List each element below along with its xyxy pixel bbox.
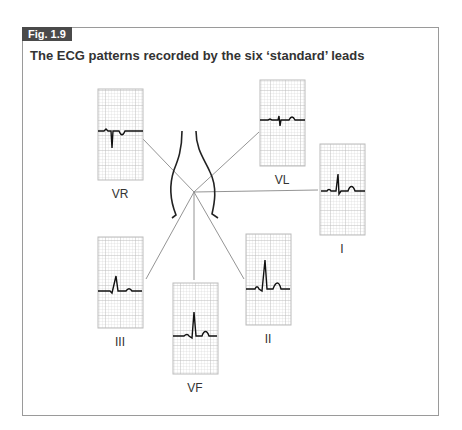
lead-iii-label: III <box>98 335 142 349</box>
lead-ii-strip <box>246 234 291 325</box>
lead-vl-strip <box>260 80 305 166</box>
lead-vf-label: VF <box>173 381 217 395</box>
lead-vl-label: VL <box>260 173 304 187</box>
ecg-diagram <box>0 0 462 430</box>
lead-ii-label: II <box>246 332 290 346</box>
lead-iii-strip <box>98 237 143 328</box>
lead-vf-strip <box>173 283 218 374</box>
lead-i-label: I <box>320 242 364 256</box>
lead-vr-label: VR <box>98 187 142 201</box>
torso-outline <box>171 131 218 218</box>
lead-i-strip <box>320 144 365 235</box>
lead-vr-strip <box>98 89 143 180</box>
